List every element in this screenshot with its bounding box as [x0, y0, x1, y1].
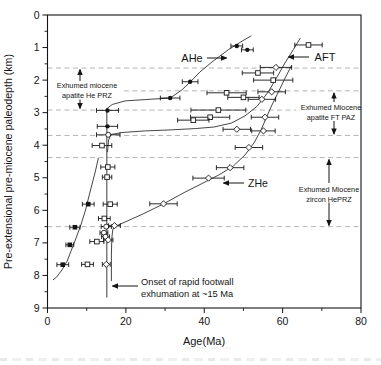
he-prz-note: Exhumed miocene [57, 81, 117, 90]
fit-curve [107, 36, 251, 113]
data-point [111, 223, 117, 229]
data-point [205, 175, 211, 181]
data-point [271, 78, 276, 83]
y-tick-label: 0 [34, 9, 40, 21]
y-tick-label: 6 [34, 204, 40, 216]
data-point [105, 175, 110, 180]
data-point [306, 43, 311, 48]
data-point [85, 262, 90, 267]
data-point [95, 239, 100, 244]
data-point [106, 132, 111, 137]
data-point [160, 201, 166, 207]
depth-vs-age-chart: 0204060800123456789AHeAFTZHeExhumed mioc… [0, 0, 381, 365]
data-point [106, 165, 111, 170]
fit-curve [53, 158, 98, 280]
data-point [103, 261, 109, 267]
zircon-prz-note: Exhumed Miocene [299, 185, 359, 194]
zhe-label: ZHe [248, 177, 268, 189]
data-point [108, 202, 113, 207]
x-tick-label: 0 [45, 315, 51, 327]
data-point [105, 124, 109, 128]
y-tick-label: 3 [34, 106, 40, 118]
data-point [188, 80, 192, 84]
data-point [73, 225, 78, 230]
data-point [224, 91, 229, 96]
data-point [104, 224, 109, 229]
data-point [234, 126, 240, 132]
y-tick-label: 8 [34, 269, 40, 281]
figure: 0204060800123456789AHeAFTZHeExhumed mioc… [0, 0, 381, 365]
x-axis-label: Age(Ma) [183, 335, 225, 347]
y-tick-label: 2 [34, 74, 40, 86]
onset-note: exhumation at ~15 Ma [141, 289, 234, 299]
ft-paz-note: apatite FT PAZ [307, 113, 356, 122]
data-point [216, 108, 221, 113]
y-tick-label: 9 [34, 302, 40, 314]
x-tick-label: 40 [198, 315, 210, 327]
data-point [235, 44, 239, 48]
x-tick-label: 60 [277, 315, 289, 327]
data-point [60, 262, 65, 267]
data-point [256, 71, 261, 76]
data-point [246, 144, 252, 150]
onset-note: Onset of rapid footwall [141, 277, 234, 287]
y-tick-label: 5 [34, 171, 40, 183]
x-tick-label: 80 [355, 315, 367, 327]
y-tick-label: 7 [34, 236, 40, 248]
data-point [68, 243, 73, 248]
aft-label: AFT [315, 51, 336, 63]
y-axis-label: Pre-extensional pre-miocene paleodepth (… [2, 54, 14, 269]
data-point [105, 108, 109, 112]
data-point [100, 143, 105, 148]
chart-generated-content: 0204060800123456789AHeAFTZHeExhumed mioc… [34, 9, 367, 327]
y-tick-label: 4 [34, 139, 40, 151]
y-tick-label: 1 [34, 41, 40, 53]
data-point [245, 48, 249, 52]
data-point [273, 64, 279, 70]
caption-fragment [0, 358, 381, 361]
zircon-prz-note: zircon HePRZ [306, 195, 352, 204]
ahe-label: AHe [181, 52, 202, 64]
data-point [168, 96, 172, 100]
data-point [191, 118, 196, 123]
data-point [86, 202, 91, 207]
x-tick-label: 20 [120, 315, 132, 327]
caption-fragment [185, 347, 231, 349]
ft-paz-note: Exhumed Miocene [301, 103, 361, 112]
he-prz-note: apatite He PRZ [62, 91, 112, 100]
data-point [102, 216, 107, 221]
data-point [241, 95, 246, 100]
